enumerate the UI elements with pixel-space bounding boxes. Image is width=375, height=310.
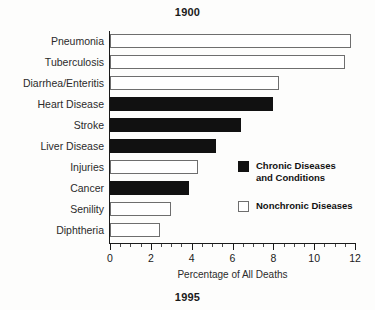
x-tick-minor — [294, 244, 295, 247]
x-tick-major — [233, 244, 234, 250]
chart-title-bottom: 1995 — [0, 291, 375, 303]
x-tick-minor — [130, 244, 131, 247]
x-tick-minor — [284, 244, 285, 247]
x-tick-minor — [253, 244, 254, 247]
legend-item-nonchronic: Nonchronic Diseases — [238, 200, 353, 212]
bar-row — [110, 136, 355, 157]
bar-row — [110, 73, 355, 94]
x-tick-minor — [345, 244, 346, 247]
x-tick-minor — [181, 244, 182, 247]
x-tick-minor — [202, 244, 203, 247]
y-axis-label-injuries: Injuries — [0, 157, 104, 178]
y-axis-label-cancer: Cancer — [0, 178, 104, 199]
bar-row — [110, 31, 355, 52]
bar-stroke — [110, 118, 241, 132]
x-tick-label: 8 — [258, 252, 288, 264]
x-tick-minor — [243, 244, 244, 247]
bar-injuries — [110, 160, 198, 174]
bar-cancer — [110, 181, 189, 195]
x-tick-minor — [141, 244, 142, 247]
x-tick-major — [273, 244, 274, 250]
legend-swatch-open-square-icon — [238, 201, 249, 212]
bar-row — [110, 52, 355, 73]
x-tick-minor — [324, 244, 325, 247]
x-tick-label: 0 — [95, 252, 125, 264]
x-tick-label: 6 — [218, 252, 248, 264]
x-tick-minor — [263, 244, 264, 247]
x-tick-minor — [161, 244, 162, 247]
x-tick-minor — [304, 244, 305, 247]
legend-label-nonchronic: Nonchronic Diseases — [256, 200, 353, 212]
bar-liver-disease — [110, 139, 216, 153]
x-tick-label: 4 — [177, 252, 207, 264]
bar-row — [110, 115, 355, 136]
x-tick-label: 10 — [299, 252, 329, 264]
x-tick-major — [192, 244, 193, 250]
x-tick-label: 12 — [340, 252, 370, 264]
y-axis-label-senility: Senility — [0, 199, 104, 220]
bar-senility — [110, 202, 171, 216]
bar-diphtheria — [110, 223, 160, 237]
bar-pneumonia — [110, 34, 351, 48]
x-tick-minor — [212, 244, 213, 247]
x-tick-major — [355, 244, 356, 250]
legend-label-chronic: Chronic Diseases and Conditions — [256, 160, 336, 183]
y-axis-label-pneumonia: Pneumonia — [0, 31, 104, 52]
legend-item-chronic: Chronic Diseases and Conditions — [238, 160, 336, 183]
y-axis-label-diphtheria: Diphtheria — [0, 220, 104, 241]
y-axis-label-stroke: Stroke — [0, 115, 104, 136]
bar-diarrhea-enteritis — [110, 76, 279, 90]
y-axis-label-liver-disease: Liver Disease — [0, 136, 104, 157]
x-tick-minor — [171, 244, 172, 247]
x-axis-title: Percentage of All Deaths — [110, 269, 355, 280]
chart-title-top: 1900 — [0, 6, 375, 18]
legend-swatch-filled-square-icon — [238, 161, 249, 172]
x-tick-minor — [222, 244, 223, 247]
x-tick-major — [110, 244, 111, 250]
x-tick-minor — [335, 244, 336, 247]
x-tick-minor — [120, 244, 121, 247]
bar-tuberculosis — [110, 55, 345, 69]
bar-heart-disease — [110, 97, 273, 111]
y-axis-label-heart-disease: Heart Disease — [0, 94, 104, 115]
y-axis-label-tuberculosis: Tuberculosis — [0, 52, 104, 73]
x-tick-label: 2 — [136, 252, 166, 264]
bar-row — [110, 94, 355, 115]
x-tick-major — [314, 244, 315, 250]
bar-chart-figure: 1900 PneumoniaTuberculosisDiarrhea/Enter… — [0, 0, 375, 310]
y-axis-label-diarrhea-enteritis: Diarrhea/Enteritis — [0, 73, 104, 94]
bar-row — [110, 220, 355, 241]
x-tick-major — [151, 244, 152, 250]
